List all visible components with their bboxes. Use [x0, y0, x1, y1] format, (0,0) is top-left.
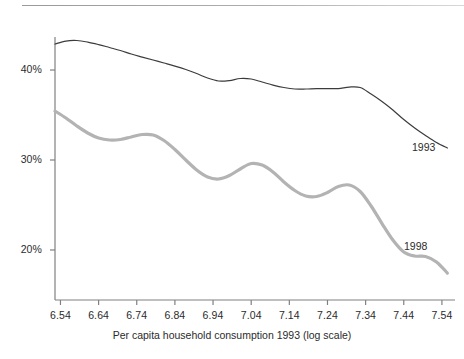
x-tick-label-4: 6.94	[193, 309, 233, 321]
x-tick-label-0: 6.54	[40, 309, 80, 321]
x-tick-label-3: 6.84	[155, 309, 195, 321]
y-tick-label-0: 40%	[2, 63, 42, 75]
x-axis-ticks	[60, 300, 441, 305]
x-tick-label-7: 7.24	[307, 309, 347, 321]
series-label-1998: 1998	[404, 240, 427, 252]
chart-figure: 40%30%20% 6.546.646.746.846.947.047.147.…	[0, 0, 464, 359]
x-tick-label-8: 7.34	[346, 309, 386, 321]
data-series-group	[55, 40, 447, 273]
x-tick-label-6: 7.14	[269, 309, 309, 321]
y-tick-label-1: 30%	[2, 153, 42, 165]
x-tick-label-10: 7.54	[422, 309, 462, 321]
x-axis-title: Per capita household consumption 1993 (l…	[0, 329, 464, 341]
x-tick-label-5: 7.04	[231, 309, 271, 321]
x-tick-label-1: 6.64	[79, 309, 119, 321]
y-axis-ticks	[50, 70, 55, 250]
series-line-1993	[55, 40, 447, 148]
y-tick-label-2: 20%	[2, 243, 42, 255]
axis-lines	[55, 37, 455, 300]
x-tick-label-2: 6.74	[117, 309, 157, 321]
series-line-1998	[55, 111, 447, 273]
chart-plot-area	[0, 0, 464, 359]
x-tick-label-9: 7.44	[384, 309, 424, 321]
series-label-1993: 1993	[412, 141, 435, 153]
